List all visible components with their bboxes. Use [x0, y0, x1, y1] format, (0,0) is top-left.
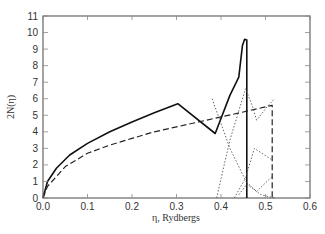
y-tick-label: 10 [27, 27, 39, 38]
x-tick-label: 0.3 [170, 201, 184, 212]
series-layer [43, 39, 274, 198]
y-tick-label: 11 [28, 11, 39, 22]
y-axis-title: 2N(η) [5, 95, 17, 119]
y-tick-label: 9 [32, 44, 38, 55]
plot-area [43, 16, 310, 198]
y-tick-label: 0 [32, 193, 38, 204]
y-tick-label: 6 [32, 93, 38, 104]
y-tick-label: 8 [32, 60, 38, 71]
series-solid [43, 39, 247, 198]
x-axis-title: η, Rydbergs [152, 212, 200, 223]
x-tick-label: 0.2 [125, 201, 139, 212]
y-tick-label: 5 [32, 110, 38, 121]
series-dotted-2 [212, 99, 274, 198]
density-of-states-chart: 0.00.10.20.30.40.50.6 01234567891011 η, … [0, 0, 325, 234]
y-tick-label: 1 [32, 176, 38, 187]
y-tick-label: 2 [32, 159, 38, 170]
x-tick-label: 0.0 [36, 201, 50, 212]
y-tick-label: 4 [32, 126, 38, 137]
x-tick-label: 0.1 [81, 201, 95, 212]
x-tick-label: 0.6 [303, 201, 317, 212]
series-dotted-3 [234, 148, 272, 198]
y-tick-label: 3 [32, 143, 38, 154]
x-tick-label: 0.4 [214, 201, 228, 212]
x-tick-label: 0.5 [259, 201, 273, 212]
y-tick-label: 7 [32, 77, 38, 88]
series-dashed [43, 105, 272, 198]
axes-frame [43, 16, 310, 198]
series-dotted-4 [239, 177, 272, 195]
x-axis-ticks: 0.00.10.20.30.40.50.6 [36, 16, 317, 212]
